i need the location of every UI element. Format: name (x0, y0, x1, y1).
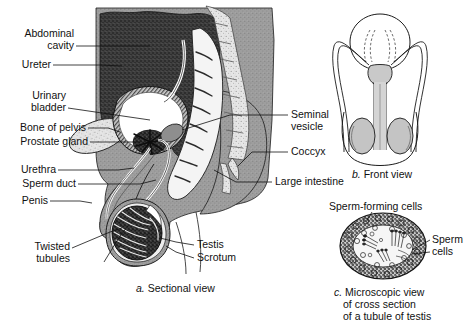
label-testis: Testis (197, 239, 224, 251)
label-prostate-gland: Prostate gland (2, 136, 88, 148)
caption-panel-c-line-2: of cross section (334, 298, 431, 310)
label-bone-of-pelvis: Bone of pelvis (2, 122, 86, 134)
caption-panel-b: b. Front view (352, 168, 412, 180)
label-sperm-cells: Sperm cells (432, 234, 463, 257)
label-abdominal-cavity: Abdominal cavity (2, 28, 74, 51)
label-coccyx: Coccyx (291, 146, 325, 158)
label-large-intestine: Large intestine (275, 176, 344, 188)
b-prostate (368, 65, 392, 85)
label-urethra: Urethra (2, 164, 56, 176)
caption-panel-c-line-3: of a tubule of testis (334, 310, 431, 322)
label-sperm-forming-cells: Sperm-forming cells (329, 201, 422, 213)
caption-panel-a: a. Sectional view (136, 282, 215, 294)
label-penis: Penis (2, 195, 48, 207)
label-ureter: Ureter (2, 59, 51, 71)
caption-panel-c: c. Microscopic view of cross section of … (334, 286, 431, 322)
b-bladder (350, 14, 410, 70)
label-scrotum: Scrotum (197, 252, 236, 264)
caption-panel-c-line-1: Microscopic view (345, 286, 424, 298)
label-sperm-duct: Sperm duct (2, 178, 76, 190)
label-twisted-tubules: Twisted tubules (2, 241, 70, 264)
label-urinary-bladder: Urinary bladder (2, 90, 66, 113)
caption-panel-c-label: c. (334, 286, 342, 298)
b-testis-right (387, 118, 413, 154)
label-seminal-vesicle: Seminal vesicle (291, 109, 329, 132)
b-testis-left (349, 118, 375, 154)
